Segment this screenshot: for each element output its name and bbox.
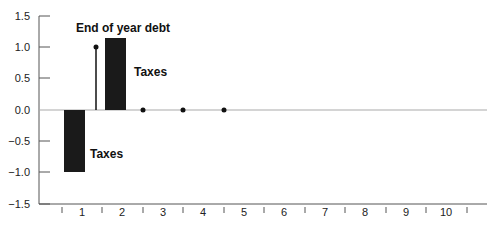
taxes-annotation-bottom: Taxes [90,147,123,161]
svg-text:10: 10 [440,206,452,218]
debt-point [94,45,99,50]
svg-text:7: 7 [322,206,328,218]
y-tick-labels: 1.5 1.0 0.5 0.0 −0.5 −1.0 −1.5 [8,10,30,210]
debt-point [141,108,146,113]
svg-text:2: 2 [119,206,125,218]
taxes-bar-year-1 [64,110,85,172]
svg-text:6: 6 [281,206,287,218]
svg-text:0.0: 0.0 [15,104,30,116]
svg-text:5: 5 [241,206,247,218]
svg-text:0.5: 0.5 [15,72,30,84]
x-tick-labels: 1 2 3 4 5 6 7 8 9 10 [79,206,452,218]
taxes-annotation-top: Taxes [134,65,167,79]
svg-text:1: 1 [79,206,85,218]
debt-point [181,108,186,113]
svg-text:−0.5: −0.5 [8,135,30,147]
svg-text:4: 4 [200,206,206,218]
svg-text:9: 9 [403,206,409,218]
svg-text:1.5: 1.5 [15,10,30,22]
svg-text:1.0: 1.0 [15,41,30,53]
svg-text:8: 8 [362,206,368,218]
taxes-bar-year-2 [105,38,126,110]
chart: 1.5 1.0 0.5 0.0 −0.5 −1.0 −1.5 1 2 3 4 5… [0,0,500,231]
debt-point [222,108,227,113]
svg-text:3: 3 [160,206,166,218]
svg-text:−1.5: −1.5 [8,198,30,210]
svg-text:−1.0: −1.0 [8,166,30,178]
debt-annotation: End of year debt [76,21,170,35]
